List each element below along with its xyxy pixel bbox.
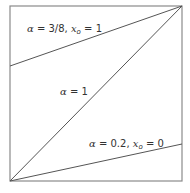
x-value: = 0 [143, 138, 164, 149]
alpha-value: = 0.2, [96, 138, 133, 149]
label-alpha-3-8: α = 3/8, xo = 1 [27, 23, 102, 38]
alpha-symbol: α [27, 23, 34, 34]
alpha-value: = 1 [67, 86, 88, 97]
label-alpha-0-2: α = 0.2, xo = 0 [89, 138, 164, 153]
label-alpha-1: α = 1 [60, 86, 88, 98]
alpha-value: = 3/8, [34, 23, 71, 34]
x-value: = 1 [81, 23, 102, 34]
alpha-symbol: α [60, 86, 67, 97]
alpha-symbol: α [89, 138, 96, 149]
